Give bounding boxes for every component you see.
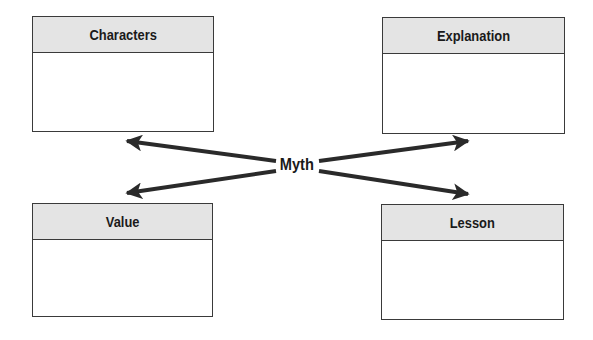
box-title-value: Value: [106, 213, 140, 230]
box-title-characters: Characters: [89, 26, 156, 43]
box-header: Explanation: [383, 18, 564, 54]
center-label: Myth: [280, 155, 314, 175]
box-lesson: Lesson: [381, 204, 564, 320]
box-title-lesson: Lesson: [450, 214, 495, 231]
box-header: Lesson: [382, 205, 563, 241]
box-header: Value: [33, 204, 212, 240]
arrow-to-lesson: [319, 171, 468, 194]
arrow-to-explanation: [319, 141, 468, 161]
box-title-explanation: Explanation: [437, 27, 510, 44]
box-explanation: Explanation: [382, 17, 565, 134]
arrow-to-value: [127, 171, 276, 193]
box-value: Value: [32, 203, 213, 317]
arrow-to-characters: [127, 141, 276, 161]
box-characters: Characters: [32, 16, 214, 132]
center-node-myth: Myth: [270, 155, 324, 175]
box-header: Characters: [33, 17, 213, 53]
